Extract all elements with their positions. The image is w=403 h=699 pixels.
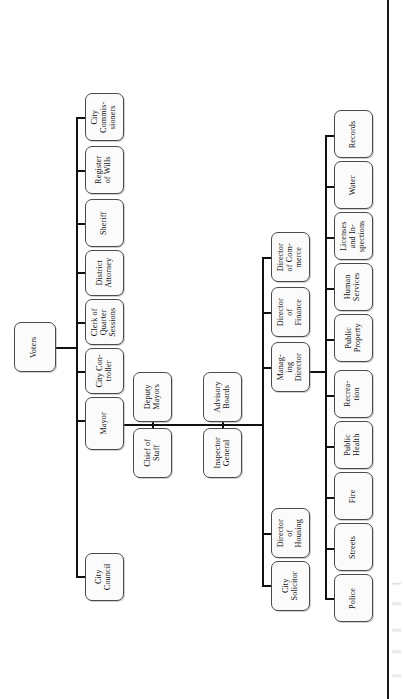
connector-bus-to-director-of-commerce <box>262 257 271 259</box>
node-inspector-general-label: Inspector General <box>214 437 232 468</box>
connector-departments-bus <box>325 135 327 600</box>
node-district-attorney[interactable]: District Attorney <box>85 250 124 296</box>
connector-bus-to-public-health <box>325 446 334 448</box>
org-chart: Voters City Commis- sioners Register of … <box>0 0 403 699</box>
connector-bus-to-district-attorney <box>76 272 85 274</box>
node-director-of-housing[interactable]: Director of Housing <box>271 508 310 558</box>
node-streets-label: Streets <box>349 536 358 559</box>
node-licenses-and-inspections-label: Licenses and In- spections <box>340 220 367 251</box>
connector-bus-to-city-controller <box>76 371 85 373</box>
node-district-attorney-label: District Attorney <box>96 258 114 288</box>
node-director-of-commerce-label: Director of Com- merce <box>277 243 304 271</box>
node-recreation[interactable]: Recrea- tion <box>334 370 373 418</box>
node-records-label: Records <box>349 120 358 148</box>
connector-bus-to-register-of-wills <box>76 170 85 172</box>
connector-bus-to-city-commissioners <box>76 117 85 119</box>
connector-elected-bus <box>76 117 78 578</box>
node-water[interactable]: Water <box>334 161 373 209</box>
node-managing-director[interactable]: Manag- ing Director <box>271 342 310 392</box>
connector-bus-to-clerk-quarter-sessions <box>76 322 85 324</box>
node-sheriff[interactable]: Sheriff <box>85 199 124 247</box>
connector-bus-to-director-of-finance <box>262 312 271 314</box>
node-city-commissioners[interactable]: City Commis- sioners <box>85 93 124 141</box>
node-city-commissioners-label: City Commis- sioners <box>91 101 118 132</box>
connector-bus-to-records <box>325 135 334 137</box>
node-public-property[interactable]: Public Property <box>334 314 373 362</box>
node-city-solicitor[interactable]: City Solicitor <box>271 561 310 611</box>
connector-bus-to-mayor <box>76 420 85 422</box>
node-clerk-of-quarter-sessions[interactable]: Clerk of Quarter Sessions <box>85 299 124 345</box>
connector-bus-to-licenses-inspections <box>325 237 334 239</box>
page-border-line <box>387 0 389 699</box>
connector-bus-to-fire <box>325 497 334 499</box>
connector-bus-to-public-property <box>325 339 334 341</box>
node-city-controller-label: City Con- troller <box>96 354 114 387</box>
node-director-of-finance[interactable]: Director of Finance <box>271 287 310 337</box>
node-director-of-housing-label: Director of Housing <box>277 519 304 547</box>
node-human-services[interactable]: Human Services <box>334 263 373 311</box>
node-director-of-finance-label: Director of Finance <box>277 298 304 326</box>
connector-voters-to-bus <box>56 347 78 349</box>
connector-bus-to-director-of-housing <box>262 533 271 535</box>
node-recreation-label: Recrea- tion <box>345 381 363 407</box>
connector-bus-to-city-council <box>76 576 85 578</box>
node-fire-label: Fire <box>349 489 358 503</box>
node-police[interactable]: Police <box>334 574 373 622</box>
node-city-council-label: City Council <box>96 564 114 591</box>
connector-directors-bus <box>262 257 264 587</box>
node-deputy-mayors-label: Deputy Mayors <box>144 384 162 410</box>
node-managing-director-label: Manag- ing Director <box>277 353 304 381</box>
connector-bus-to-managing-director <box>262 367 271 369</box>
node-records[interactable]: Records <box>334 110 373 158</box>
node-human-services-label: Human Services <box>345 273 363 302</box>
node-city-council[interactable]: City Council <box>85 553 124 601</box>
node-city-controller[interactable]: City Con- troller <box>85 348 124 394</box>
connector-bus-to-streets <box>325 548 334 550</box>
connector-bus-to-recreation <box>325 395 334 397</box>
node-city-solicitor-label: City Solicitor <box>282 571 300 600</box>
node-inspector-general[interactable]: Inspector General <box>203 428 242 478</box>
node-advisory-boards[interactable]: Advisory Boards <box>203 372 242 422</box>
node-mayor-label: Mayor <box>100 412 109 434</box>
node-public-health-label: Public Health <box>345 434 363 456</box>
node-register-of-wills-label: Register of Wills <box>96 156 114 184</box>
node-licenses-and-inspections[interactable]: Licenses and In- spections <box>334 212 373 260</box>
node-mayor[interactable]: Mayor <box>85 397 124 450</box>
node-chief-of-staff-label: Chief of Staff <box>144 439 162 467</box>
node-public-property-label: Public Property <box>345 324 363 353</box>
node-director-of-commerce[interactable]: Director of Com- merce <box>271 232 310 282</box>
node-fire[interactable]: Fire <box>334 472 373 520</box>
node-voters[interactable]: Voters <box>14 322 56 372</box>
node-streets[interactable]: Streets <box>334 523 373 571</box>
node-sheriff-label: Sheriff <box>100 211 109 234</box>
connector-bus-to-police <box>325 598 334 600</box>
connector-mayor-spine <box>120 424 263 426</box>
connector-bus-to-human-services <box>325 288 334 290</box>
node-voters-label: Voters <box>31 336 40 357</box>
connector-bus-to-sheriff <box>76 223 85 225</box>
connector-bus-to-water <box>325 186 334 188</box>
node-clerk-of-quarter-sessions-label: Clerk of Quarter Sessions <box>91 307 118 336</box>
page-margin-artifact <box>392 575 401 695</box>
node-advisory-boards-label: Advisory Boards <box>214 381 232 412</box>
node-police-label: Police <box>349 587 358 608</box>
connector-bus-to-city-solicitor <box>262 585 271 587</box>
node-register-of-wills[interactable]: Register of Wills <box>85 146 124 194</box>
node-chief-of-staff[interactable]: Chief of Staff <box>133 428 172 478</box>
node-deputy-mayors[interactable]: Deputy Mayors <box>133 372 172 422</box>
node-water-label: Water <box>349 175 358 195</box>
node-public-health[interactable]: Public Health <box>334 421 373 469</box>
